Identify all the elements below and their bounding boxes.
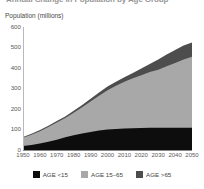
- y-tick-400: 400: [1, 65, 21, 71]
- legend-swatch-icon: [33, 171, 40, 178]
- legend-label: AGE >65: [146, 171, 171, 178]
- x-axis-tick-labels: 1950196019701980199020002010202020302040…: [23, 152, 192, 162]
- plot-area: [23, 27, 192, 150]
- y-tick-100: 100: [1, 126, 21, 132]
- x-axis-line: [23, 150, 192, 151]
- y-tick-200: 200: [1, 106, 21, 112]
- stacked-area-plot: [23, 27, 192, 150]
- legend-swatch-icon: [136, 171, 143, 178]
- chart-figure: Annual Change in Population by Age Group…: [0, 0, 204, 189]
- legend-label: AGE 15–65: [91, 171, 123, 178]
- legend-item-1[interactable]: AGE 15–65: [81, 171, 123, 178]
- x-tick-2050: 2050: [180, 152, 204, 158]
- legend-item-0[interactable]: AGE <15: [33, 171, 68, 178]
- y-tick-500: 500: [1, 44, 21, 50]
- y-tick-300: 300: [1, 85, 21, 91]
- legend-label: AGE <15: [43, 171, 68, 178]
- chart-title: Annual Change in Population by Age Group: [6, 0, 198, 6]
- legend-item-2[interactable]: AGE >65: [136, 171, 171, 178]
- legend-swatch-icon: [81, 171, 88, 178]
- chart-legend: AGE <15AGE 15–65AGE >65: [0, 168, 204, 180]
- y-tick-600: 600: [1, 24, 21, 30]
- y-axis-tick-labels: 600 500 400 300 200 100 0: [0, 0, 21, 189]
- y-axis-line: [23, 27, 24, 151]
